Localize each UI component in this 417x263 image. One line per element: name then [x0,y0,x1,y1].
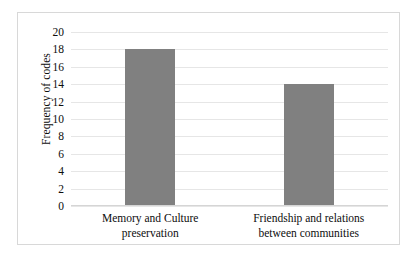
y-axis-tick-labels: 20181614121086420 [42,32,64,206]
y-tick-label: 16 [42,61,64,73]
y-tick-label: 4 [42,165,64,177]
plot-area [71,32,388,206]
category-label-line: Friendship and relations [230,211,389,226]
x-axis-category-labels: Memory and CulturepreservationFriendship… [71,211,388,245]
bar-slot [71,32,230,206]
y-tick-label: 6 [42,148,64,160]
bar[interactable] [284,84,334,206]
category-label: Memory and Culturepreservation [71,211,230,240]
y-tick-label: 12 [42,96,64,108]
y-tick-label: 20 [42,26,64,38]
y-tick-label: 2 [42,183,64,195]
y-tick-label: 8 [42,130,64,142]
gridline [71,206,388,207]
category-label-line: between communities [230,226,389,241]
bar-slot [230,32,389,206]
y-tick-label: 14 [42,78,64,90]
category-label: Friendship and relationsbetween communit… [230,211,389,240]
y-tick-label: 0 [42,200,64,212]
x-axis-baseline [71,205,388,206]
bar[interactable] [125,49,175,206]
y-tick-label: 18 [42,43,64,55]
y-tick-label: 10 [42,113,64,125]
bar-chart-figure: Frequency of codes 20181614121086420 Mem… [17,12,400,245]
category-label-line: Memory and Culture [71,211,230,226]
category-label-line: preservation [71,226,230,241]
